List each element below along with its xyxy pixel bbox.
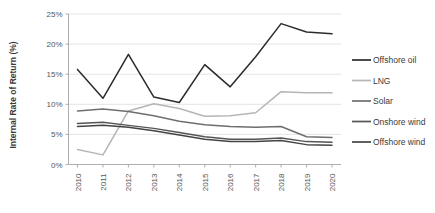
legend-label-lng[interactable]: LNG	[373, 76, 390, 86]
x-tick-label: 2016	[226, 173, 235, 191]
series-line-offshore-oil	[78, 24, 333, 103]
x-tick-label: 2019	[303, 173, 312, 191]
x-tick-label: 2017	[252, 173, 261, 191]
y-tick-label: 5%	[51, 130, 63, 139]
y-tick-label: 15%	[46, 70, 62, 79]
x-tick-label: 2015	[201, 173, 210, 191]
y-tick-label: 10%	[46, 100, 62, 109]
chart-legend: Offshore oilLNGSolarOnshore windOffshore…	[352, 55, 426, 147]
legend-label-offshore-wind[interactable]: Offshore wind	[373, 137, 426, 147]
y-tick-label: 0%	[51, 161, 63, 170]
x-tick-label: 2012	[124, 173, 133, 191]
y-tick-label: 20%	[46, 40, 62, 49]
x-axis-ticks: 2010201120122013201420152016201720182019…	[74, 165, 338, 192]
x-tick-label: 2013	[150, 173, 159, 191]
series-line-offshore-wind	[78, 125, 333, 145]
x-tick-label: 2018	[277, 173, 286, 191]
x-tick-label: 2010	[74, 173, 83, 191]
line-chart: Internal Rate of Return (%) 0%5%10%15%20…	[0, 0, 435, 213]
legend-label-onshore-wind[interactable]: Onshore wind	[373, 117, 426, 127]
y-tick-label: 25%	[46, 10, 62, 19]
legend-label-offshore-oil[interactable]: Offshore oil	[373, 55, 416, 65]
x-tick-label: 2014	[175, 173, 184, 191]
y-axis-ticks: 0%5%10%15%20%25%	[46, 10, 68, 170]
series-lines	[78, 24, 333, 155]
x-tick-label: 2020	[328, 173, 337, 191]
legend-label-solar[interactable]: Solar	[373, 96, 393, 106]
y-axis-title: Internal Rate of Return (%)	[8, 41, 18, 148]
chart-container: Internal Rate of Return (%) 0%5%10%15%20…	[0, 0, 435, 213]
x-tick-label: 2011	[99, 173, 108, 191]
